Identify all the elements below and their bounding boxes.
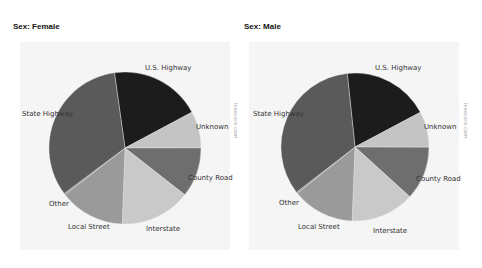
label-county-road: County Road bbox=[416, 175, 461, 183]
label-interstate: Interstate bbox=[373, 227, 407, 235]
label-other: Other bbox=[49, 200, 69, 208]
pie-chart bbox=[241, 0, 482, 268]
label-unknown: Unknown bbox=[424, 123, 457, 131]
chart-female: Sex: Female U.S. Highway State Highway U… bbox=[0, 0, 241, 268]
label-us-highway: U.S. Highway bbox=[375, 64, 422, 72]
label-state-highway: State Highway bbox=[22, 110, 73, 118]
label-us-highway: U.S. Highway bbox=[145, 64, 192, 72]
label-county-road: County Road bbox=[188, 174, 233, 182]
label-local-street: Local Street bbox=[298, 223, 340, 231]
label-unknown: Unknown bbox=[196, 123, 229, 131]
label-local-street: Local Street bbox=[68, 223, 110, 231]
watermark: iseecars.com bbox=[463, 103, 469, 138]
label-other: Other bbox=[279, 199, 299, 207]
label-state-highway: State Highway bbox=[253, 110, 304, 118]
watermark: iseecars.com bbox=[233, 103, 239, 138]
chart-male: Sex: Male U.S. Highway State Highway Unk… bbox=[241, 0, 482, 268]
pie-chart bbox=[0, 0, 241, 268]
label-interstate: Interstate bbox=[146, 225, 180, 233]
